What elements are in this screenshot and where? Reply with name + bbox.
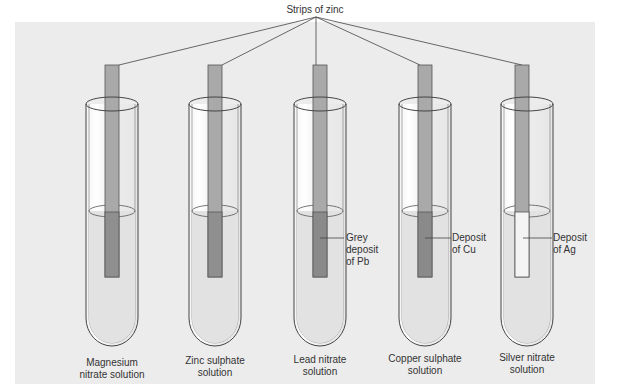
annotation-line: of Ag: [553, 244, 587, 256]
annotation-line: Deposit: [452, 232, 486, 244]
pointer-lines: [119, 17, 522, 65]
annotation-line: of Cu: [452, 244, 486, 256]
label-line: Copper sulphate: [370, 353, 480, 365]
tube-5: [501, 65, 553, 346]
tube-label-lead: Lead nitrate solution: [270, 354, 370, 378]
annotation-line: of Pb: [346, 256, 378, 268]
tube-label-copper: Copper sulphate solution: [370, 353, 480, 377]
test-tubes-illustration: [0, 0, 617, 390]
label-line: solution: [477, 364, 577, 376]
label-line: solution: [370, 365, 480, 377]
strips-of-zinc-label: Strips of zinc: [260, 4, 370, 15]
tube-label-magnesium: Magnesium nitrate solution: [62, 357, 162, 381]
label-line: Lead nitrate: [270, 354, 370, 366]
annotation-line: deposit: [346, 244, 378, 256]
label-line: Magnesium: [62, 357, 162, 369]
label-line: Silver nitrate: [477, 352, 577, 364]
tube-3: [294, 65, 346, 346]
annotation-copper: Deposit of Cu: [452, 232, 486, 256]
tube-label-silver: Silver nitrate solution: [477, 352, 577, 376]
tube-2: [189, 65, 241, 346]
label-line: solution: [165, 367, 265, 379]
tube-label-zinc: Zinc sulphate solution: [165, 355, 265, 379]
tube-1: [86, 65, 138, 346]
annotation-lead: Grey deposit of Pb: [346, 232, 378, 268]
annotation-line: Deposit: [553, 232, 587, 244]
label-line: nitrate solution: [62, 369, 162, 381]
label-line: Zinc sulphate: [165, 355, 265, 367]
annotation-line: Grey: [346, 232, 378, 244]
tube-4: [399, 65, 451, 346]
annotation-silver: Deposit of Ag: [553, 232, 587, 256]
label-line: solution: [270, 366, 370, 378]
